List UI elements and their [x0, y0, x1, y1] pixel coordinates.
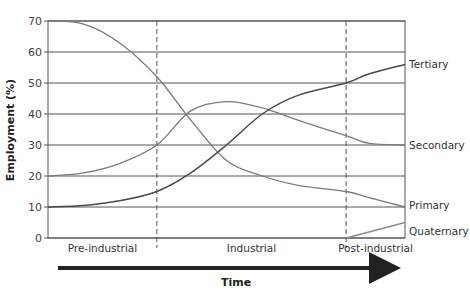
y-axis-ticks: 010203040506070 [28, 15, 42, 245]
y-tick-label: 70 [28, 15, 42, 28]
plot-frame [48, 21, 405, 238]
series-lines [48, 21, 405, 238]
phase-label: Industrial [227, 242, 276, 254]
y-tick-label: 10 [28, 201, 42, 214]
y-tick-label: 30 [28, 139, 42, 152]
y-tick-label: 20 [28, 170, 42, 183]
gridlines [44, 21, 405, 238]
phase-dividers [157, 21, 346, 248]
y-axis-title: Employment (%) [4, 79, 17, 181]
series-label-primary: Primary [409, 199, 450, 211]
series-label-secondary: Secondary [409, 139, 465, 151]
phase-labels: Pre-industrialIndustrialPost-industrial [68, 242, 413, 254]
phase-label: Pre-industrial [68, 242, 138, 254]
x-axis-title: Time [221, 276, 251, 289]
y-tick-label: 40 [28, 108, 42, 121]
y-tick-label: 0 [35, 232, 42, 245]
series-line-quaternary [346, 223, 405, 239]
y-tick-label: 50 [28, 77, 42, 90]
series-label-quaternary: Quaternary [409, 225, 469, 237]
series-line-secondary [48, 102, 405, 176]
series-line-tertiary [48, 64, 405, 207]
y-tick-label: 60 [28, 46, 42, 59]
series-label-tertiary: Tertiary [408, 58, 448, 70]
employment-chart: 010203040506070 PrimarySecondaryTertiary… [0, 0, 470, 294]
phase-label: Post-industrial [338, 242, 413, 254]
series-labels: PrimarySecondaryTertiaryQuaternary [408, 58, 469, 236]
